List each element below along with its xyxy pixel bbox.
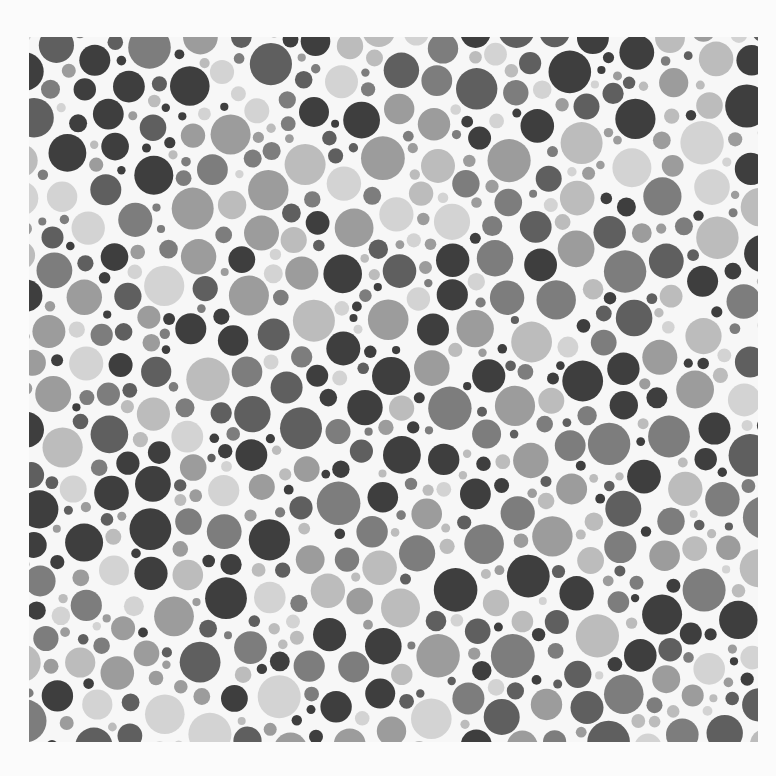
dot — [46, 740, 58, 742]
dot — [596, 306, 612, 322]
dot — [403, 131, 414, 142]
dot — [35, 376, 71, 412]
dot — [69, 114, 87, 132]
dot — [73, 414, 89, 430]
dot — [29, 560, 30, 569]
dot — [134, 156, 173, 195]
dot — [730, 657, 738, 665]
dot — [426, 611, 447, 632]
dot — [461, 729, 492, 742]
dot — [691, 37, 715, 42]
dot — [148, 441, 171, 464]
dot — [130, 245, 145, 260]
dot — [428, 37, 458, 64]
dot — [521, 109, 555, 143]
dot — [91, 416, 129, 454]
dot — [157, 225, 165, 233]
dot — [264, 723, 277, 736]
dot — [383, 254, 417, 288]
dot — [591, 80, 599, 88]
dot — [408, 143, 418, 153]
dot — [89, 158, 103, 172]
dot — [101, 513, 114, 526]
dot — [172, 188, 214, 230]
dot — [281, 116, 296, 131]
dot — [140, 114, 167, 141]
dot — [60, 215, 69, 224]
dot — [221, 268, 229, 276]
dot — [293, 300, 335, 342]
dot — [162, 647, 172, 657]
dot — [105, 529, 121, 545]
dot — [39, 37, 74, 63]
dot — [207, 514, 242, 549]
dot — [468, 273, 485, 290]
dot — [687, 266, 718, 297]
dot — [468, 647, 480, 659]
dot — [326, 419, 351, 444]
dot — [469, 51, 482, 64]
dot — [585, 512, 604, 531]
dot — [662, 321, 675, 334]
dot — [369, 269, 380, 280]
dot — [683, 652, 694, 663]
dot — [313, 240, 325, 252]
dot — [307, 705, 316, 714]
dot — [539, 597, 547, 605]
dot — [707, 529, 716, 538]
dot — [728, 384, 758, 417]
dot — [561, 122, 603, 164]
dot — [476, 297, 486, 307]
dot — [205, 577, 247, 619]
dot — [298, 523, 310, 535]
dot — [178, 112, 186, 120]
dot — [377, 716, 406, 742]
dot — [350, 314, 358, 322]
dot — [323, 255, 362, 294]
dot — [254, 582, 286, 614]
dot — [696, 81, 705, 90]
dot — [541, 476, 552, 487]
dot — [29, 52, 44, 90]
dot — [291, 346, 312, 367]
dot — [162, 661, 170, 669]
dot — [149, 671, 164, 686]
dot — [461, 37, 491, 48]
dot — [361, 136, 405, 180]
dot — [29, 222, 32, 235]
dot — [197, 304, 206, 313]
dot — [643, 177, 681, 215]
dot — [231, 86, 246, 101]
dot — [175, 313, 206, 344]
dot — [460, 720, 469, 729]
dot — [495, 565, 505, 575]
dot — [428, 444, 459, 475]
dot — [65, 647, 95, 677]
dot — [646, 387, 667, 408]
dot — [152, 76, 167, 91]
dot — [169, 382, 179, 392]
dot — [428, 387, 471, 430]
dot — [742, 688, 758, 721]
dot — [60, 627, 70, 637]
dot — [379, 470, 387, 478]
dot — [468, 127, 491, 150]
dot — [332, 461, 349, 478]
dot — [269, 623, 280, 634]
dot — [173, 541, 189, 557]
dot — [224, 631, 232, 639]
dot — [57, 103, 66, 112]
dot — [264, 264, 283, 283]
dot — [141, 357, 171, 387]
dot — [627, 460, 661, 494]
dot — [154, 596, 194, 636]
dot — [425, 238, 437, 250]
dot — [221, 685, 248, 712]
dot-plate — [29, 37, 758, 742]
dot — [658, 638, 682, 662]
dot — [29, 412, 44, 448]
dot — [235, 666, 252, 683]
dot — [143, 334, 161, 352]
dot — [360, 254, 369, 263]
dot — [725, 84, 758, 127]
